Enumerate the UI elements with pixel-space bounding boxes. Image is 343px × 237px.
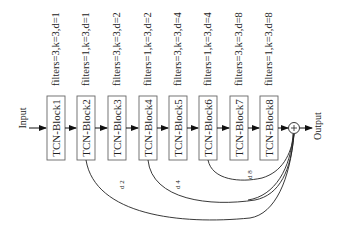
block-7-config: filters=3,k=3,d=8 bbox=[233, 11, 245, 87]
block-1-config: filters=3,k=3,d=1 bbox=[50, 11, 62, 87]
skip-label-d4: d 4 bbox=[174, 178, 183, 192]
block-7-label: TCN-Block7 bbox=[232, 96, 246, 160]
block-6-label: TCN-Block6 bbox=[201, 96, 215, 160]
output-label: Output bbox=[312, 108, 324, 144]
block-4-config: filters=1,k=3,d=2 bbox=[142, 11, 154, 87]
block-5-config: filters=3,k=3,d=4 bbox=[172, 11, 184, 87]
block-1-label: TCN-Block1 bbox=[49, 96, 63, 160]
block-3-label: TCN-Block3 bbox=[110, 96, 124, 160]
block-5-label: TCN-Block5 bbox=[171, 96, 185, 160]
block-3-config: filters=3,k=3,d=2 bbox=[111, 11, 123, 87]
skip-label-d8: d 8 bbox=[246, 168, 255, 182]
block-8-config: filters=1,k=3,d=8 bbox=[263, 11, 275, 87]
block-2-label: TCN-Block2 bbox=[79, 96, 93, 160]
input-label: Input bbox=[17, 100, 29, 136]
block-4-label: TCN-Block4 bbox=[141, 96, 155, 160]
block-6-config: filters=1,k=3,d=4 bbox=[202, 11, 214, 87]
block-8-label: TCN-Block8 bbox=[262, 96, 276, 160]
skip-label-d2: d 2 bbox=[118, 178, 127, 192]
block-2-config: filters=1,k=3,d=1 bbox=[80, 11, 92, 87]
